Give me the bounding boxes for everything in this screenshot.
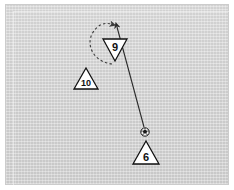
- player-number-6: 6: [143, 151, 149, 163]
- player-number-10: 10: [81, 78, 91, 88]
- player-marker-6[interactable]: 6: [133, 141, 159, 164]
- soccer-tactics-diagram: 9 10 6: [0, 0, 234, 190]
- marks-layer: 9 10 6: [0, 0, 234, 190]
- soccer-ball-icon[interactable]: [141, 128, 149, 136]
- player-marker-10[interactable]: 10: [74, 68, 98, 89]
- player-number-9: 9: [112, 41, 118, 53]
